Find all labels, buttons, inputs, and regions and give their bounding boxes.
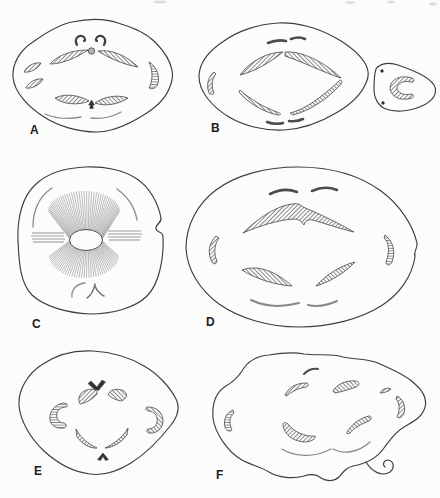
vascular-bundle [105,428,128,448]
vascular-bundle [208,72,216,95]
small-bundle-dash [289,119,303,121]
small-bundle-dash [267,122,283,124]
vascular-bundle [240,52,283,75]
fan-line [102,241,119,257]
cortical-arc [117,189,137,220]
fan-line [87,250,88,278]
crescent-bundle [396,396,405,418]
small-bundle-dash [268,40,286,43]
panel-label-c: C [32,317,41,331]
lateral-band-left [31,233,65,242]
small-bundle-dash [270,190,297,194]
small-stroke [95,286,104,296]
scan-artifacts [153,0,437,5]
section-f-outline [213,353,426,481]
vascular-bundle [209,236,219,264]
vascular-bundle [290,80,342,115]
outline-curl [366,460,393,474]
bundle-dot [382,102,385,105]
horn-bundle-icon [76,36,85,45]
panel-label-f: F [216,468,223,482]
panel-f-cross-section: F [213,353,426,482]
vascular-bundle [76,429,97,448]
vascular-bundle [285,52,341,78]
crescent-bundle [283,423,315,442]
crescent-bundle [50,403,68,428]
panel-label-e: E [34,464,42,478]
central-pith-ellipse [70,230,103,251]
panel-d-cross-section: D [186,167,417,329]
horseshoe-bundle [390,77,414,100]
fan-line [50,242,71,260]
vascular-bundle [108,389,126,401]
small-bundle-dash [304,369,318,374]
vascular-bundle [380,388,391,393]
vascular-bundle [242,268,292,286]
central-bundle-dot [88,48,94,54]
vascular-bundle [79,389,97,404]
small-stroke [87,284,95,298]
panel-label-d: D [206,315,215,329]
vascular-bundle [316,262,355,286]
panel-label-b: B [211,121,220,135]
lower-arc [45,114,81,118]
lateral-band-right [108,231,142,240]
bundle-dot [381,70,384,73]
crescent-bundle [146,407,163,433]
vascular-bundle [149,62,159,89]
lower-arc [91,112,121,118]
section-d-outline [186,167,417,327]
vascular-bundle [384,235,394,265]
fan-line [95,248,103,274]
panel-a-cross-section: A [13,20,173,138]
lower-arc [333,442,370,452]
vascular-bundle [55,95,89,104]
lower-arc [282,449,331,455]
accessory-section [374,63,436,111]
fan-line [54,201,73,235]
fan-line [89,192,91,231]
panel-e-cross-section: E [19,351,178,478]
vascular-bundle [50,50,88,64]
vascular-bundle [239,90,281,115]
panel-b-cross-section: B [199,23,368,135]
fan-line [51,203,71,236]
vascular-bundle [24,63,41,72]
fan-line [88,191,89,230]
section-a-outline [13,20,173,133]
fan-line [101,244,116,264]
keel-bundle-icon [89,100,95,109]
crescent-bundle [224,410,234,431]
fan-line [49,241,70,258]
small-bundle-dash [312,188,337,191]
figure-page: A B [0,0,440,498]
panel-label-a: A [30,123,39,137]
scan-artifact [345,1,355,4]
lower-arc [251,300,299,306]
vascular-bundle [26,79,43,88]
vascular-bundle [285,383,308,396]
panel-c-cross-section: C [18,167,163,331]
fan-line [87,191,88,230]
fan-line [71,192,80,230]
vascular-bundle [95,96,128,105]
section-b-outline [199,23,368,130]
scan-artifact [153,0,167,3]
fan-line [88,250,89,278]
horn-bundle-icon [96,36,105,45]
chevron-bundle [243,204,354,233]
scan-artifact [387,1,395,4]
bottom-caret-icon [98,453,109,461]
crescent-bundle [347,416,372,434]
vascular-bundle [98,51,138,67]
vascular-bundle [333,381,359,393]
cross-sections-figure: A B [0,0,440,498]
scan-artifact [429,2,437,6]
lower-arc [72,283,85,297]
cortical-arc [33,188,52,227]
small-bundle-dash [291,38,305,40]
lower-arc [308,301,337,306]
